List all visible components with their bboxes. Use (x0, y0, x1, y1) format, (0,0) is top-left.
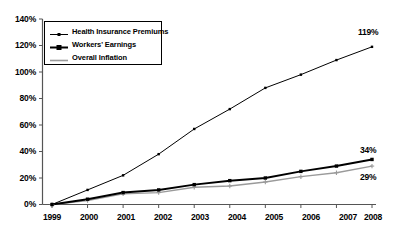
data-point-marker (157, 188, 160, 191)
y-tick-label: 140% (2, 14, 36, 24)
data-point-marker (334, 171, 338, 175)
x-tick-label: 2005 (254, 212, 294, 222)
end-label-premiums: 119% (358, 27, 378, 37)
data-point-marker (86, 198, 89, 201)
data-point-marker (121, 191, 124, 194)
legend-label: Workers' Earnings (72, 39, 136, 50)
y-tick-label: 100% (2, 67, 36, 77)
chart-container: 140% 120% 100% 80% 60% 40% 20% 0% 1999 2… (0, 0, 394, 239)
data-point-marker (229, 108, 231, 110)
x-tick-label: 2003 (180, 212, 220, 222)
y-tick-label: 0% (2, 199, 36, 209)
data-point-marker (335, 164, 338, 167)
data-point-marker (228, 179, 231, 182)
data-point-marker (193, 128, 195, 130)
legend-swatch-inflation-icon (49, 52, 69, 63)
x-tick-label: 2006 (291, 212, 331, 222)
x-tick-label: 2008 (353, 212, 393, 222)
data-point-marker (86, 189, 88, 191)
legend-label: Health Insurance Premiums (72, 26, 168, 37)
data-point-marker (263, 180, 267, 184)
data-point-marker (370, 164, 374, 168)
data-point-marker (335, 59, 337, 61)
x-tick-label: 2001 (106, 212, 146, 222)
data-point-marker (264, 176, 267, 179)
series-line (52, 159, 372, 204)
legend-item-workers-earnings: Workers' Earnings (49, 38, 161, 51)
y-tick-label: 80% (2, 93, 36, 103)
x-tick-label: 2000 (69, 212, 109, 222)
y-tick-label: 40% (2, 146, 36, 156)
legend-item-health-insurance-premiums: Health Insurance Premiums (49, 25, 161, 38)
data-point-marker (157, 153, 159, 155)
x-tick-label: 1999 (32, 212, 72, 222)
end-label-inflation: 29% (360, 172, 376, 182)
data-point-marker (370, 158, 373, 161)
data-point-marker (300, 73, 302, 75)
y-tick-label: 120% (2, 40, 36, 50)
legend-swatch-premiums-icon (49, 26, 69, 37)
data-point-marker (371, 46, 373, 48)
data-point-marker (193, 183, 196, 186)
data-point-marker (299, 170, 302, 173)
end-label-earnings: 34% (360, 145, 376, 155)
x-tick-label: 2004 (217, 212, 257, 222)
y-tick-label: 60% (2, 120, 36, 130)
chart-legend: Health Insurance Premiums Workers' Earni… (44, 21, 162, 65)
legend-swatch-earnings-icon (49, 39, 69, 50)
data-point-marker (51, 203, 53, 205)
series-line (52, 47, 372, 205)
legend-label: Overall Inflation (72, 52, 127, 63)
x-tick-label: 2002 (143, 212, 183, 222)
data-point-marker (228, 184, 232, 188)
y-tick-label: 20% (2, 173, 36, 183)
legend-item-overall-inflation: Overall Inflation (49, 51, 161, 64)
data-point-marker (299, 174, 303, 178)
data-point-marker (122, 174, 124, 176)
data-point-marker (264, 87, 266, 89)
series-layer (52, 47, 372, 205)
